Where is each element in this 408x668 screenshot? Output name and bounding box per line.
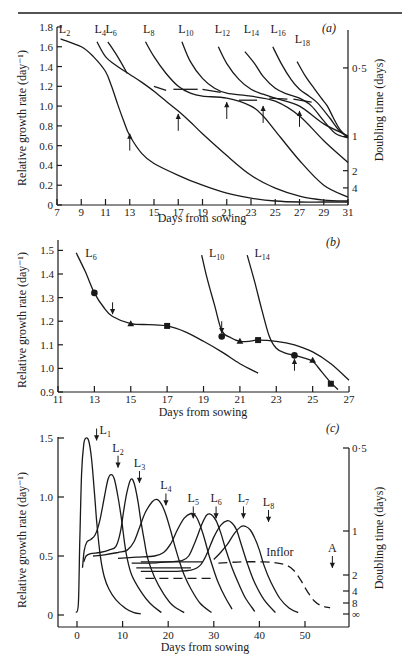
panel-c-x-axis-title: Days from sowing: [161, 640, 250, 654]
panel-a-x-tick-label: 13: [124, 206, 136, 218]
panel-a-curves: L2L4L6L8L10L12L14L16L18: [59, 22, 348, 202]
circle-marker-icon: [291, 352, 298, 359]
panel-c-y-tick-label: 0.5: [39, 550, 53, 562]
panel-b-x-tick-label: 25: [307, 393, 319, 405]
panel-a-curve-l10: [182, 42, 348, 163]
curve-label-l16: L16: [270, 22, 285, 38]
curve-label-l12: L12: [215, 22, 230, 38]
panel-a-right-tick-label: 2: [352, 165, 358, 177]
curve-label-a: A: [328, 541, 337, 555]
panel-a-up-arrow-icon-head: [127, 133, 132, 139]
panel-a-up-arrow-icon-head: [224, 102, 229, 108]
curve-label-l6: L6: [210, 491, 221, 507]
panel-c-x-tick-label: 40: [254, 629, 266, 641]
panel-a-curve-l14: [245, 52, 348, 138]
panel-a-x-tick-label: 7: [54, 206, 60, 218]
panel-a-y-tick-label: 1.2: [39, 80, 53, 92]
panel-a-y-tick-label: 1.8: [39, 21, 53, 33]
curve-label-l3: L3: [134, 456, 145, 472]
panel-a-y-tick-label: 0.6: [39, 140, 53, 152]
panel-c-x-tick-label: 50: [300, 629, 312, 641]
panel-b-curves: L6L10L14: [76, 246, 349, 389]
panel-c-label: (c): [326, 421, 339, 435]
panel-c-right-tick-label: 1: [352, 525, 358, 537]
curve-label-l2: L2: [59, 22, 70, 38]
panel-b-x-tick-label: 21: [234, 393, 245, 405]
curve-label-l10: L10: [209, 246, 224, 262]
panel-b-x-tick-label: 19: [198, 393, 210, 405]
panel-c-y-axis-title: Relative growth rate (day⁻¹): [15, 472, 29, 608]
panel-b-curve-l14: [247, 255, 338, 390]
panel-c-right-tick-label: ∞: [352, 608, 360, 620]
figure: (a) 00.20.40.60.81.01.21.41.61.879111315…: [0, 0, 408, 668]
panel-a-label: (a): [322, 21, 336, 35]
panel-c-y-tick-label: 1.5: [39, 432, 53, 444]
panel-b-label: (b): [326, 235, 340, 249]
inflor-label: Inflor: [266, 545, 293, 559]
panel-a-x-tick-label: 23: [246, 206, 258, 218]
panel-b-curve-l10: [202, 255, 349, 380]
curve-label-l4: L4: [95, 22, 106, 38]
circle-marker-icon: [218, 333, 225, 340]
panel-a-right-tick-label: 1: [352, 130, 358, 142]
panel-c-y-tick-label: 1.0: [39, 491, 53, 503]
panel-b-down-arrow-icon-head: [110, 309, 115, 315]
panel-b-axes: 0.91.01.11.21.31.41.5111315171921232527: [40, 240, 355, 405]
panel-a-dashed-segment: [269, 98, 287, 99]
panel-c-x-tick-label: 10: [117, 629, 129, 641]
panel-a-x-tick-label: 29: [318, 206, 330, 218]
panel-a-y-tick-label: 0.8: [39, 120, 53, 132]
panel-a-x-axis-title: Days from sowing: [158, 211, 247, 225]
panel-b-y-tick-label: 1.4: [40, 268, 54, 280]
panel-a-curve-l12: [218, 47, 348, 136]
curve-label-l7: L7: [238, 491, 249, 507]
panel-a-y-tick-label: 1.0: [39, 100, 53, 112]
panel-b-x-axis-title: Days from sowing: [159, 405, 248, 419]
panel-c-right-axis-title: Doubling time (days): [372, 487, 386, 590]
panel-b-y-tick-label: 1.2: [40, 315, 54, 327]
panel-c-right-tick-label: 0·5: [352, 442, 367, 454]
panel-a-curve-l4: [97, 42, 348, 201]
panel-c-down-arrow-icon-l4-head: [163, 500, 168, 506]
curve-label-l18: L18: [295, 32, 310, 48]
curve-label-l6: L6: [106, 22, 117, 38]
panel-c-dashed-inflor: [218, 562, 330, 608]
panel-c-curve-l7: [141, 521, 276, 613]
panel-c-chart: (c) 00.51.01.5010203040500·51248∞ L1L2L3…: [15, 421, 386, 654]
panel-a-curve-l18: [297, 62, 348, 138]
panel-b-up-arrow-icon-head: [292, 358, 297, 364]
panel-c-right-tick-label: 4: [352, 585, 358, 597]
square-marker-icon: [328, 381, 334, 387]
square-marker-icon: [164, 323, 170, 329]
panel-c-x-tick-label: 0: [74, 629, 80, 641]
panel-a-y-tick-label: 1.4: [39, 61, 53, 73]
panel-b-y-tick-label: 1.0: [40, 362, 54, 374]
panel-c-down-arrow-icon-l2-head: [115, 463, 120, 469]
panel-a-x-tick-label: 27: [294, 206, 306, 218]
panel-c-down-arrow-icon-a-head: [330, 563, 335, 569]
panel-b-y-tick-label: 1.1: [40, 339, 54, 351]
panel-b-x-tick-label: 23: [271, 393, 283, 405]
curve-label-l6: L6: [85, 246, 96, 262]
curve-label-l8: L8: [263, 495, 274, 511]
square-marker-icon: [255, 337, 261, 343]
circle-marker-icon: [91, 290, 98, 297]
panel-a-y-tick-label: 1.6: [39, 41, 53, 53]
curve-label-l14: L14: [254, 246, 269, 262]
panel-b-y-axis-title: Relative growth rate (day⁻¹): [15, 252, 29, 388]
curve-label-l2: L2: [112, 441, 123, 457]
curve-label-l4: L4: [160, 478, 171, 494]
panel-b-x-tick-label: 13: [89, 393, 101, 405]
curve-label-l8: L8: [143, 22, 154, 38]
panel-b-x-tick-label: 15: [125, 393, 137, 405]
panel-a-curve-l6: [108, 42, 127, 74]
panel-a-up-arrow-icon-head: [176, 114, 181, 120]
panel-a-x-tick-label: 25: [270, 206, 282, 218]
panel-b-x-tick-label: 17: [162, 393, 174, 405]
panel-a-up-arrow-icon-head: [261, 106, 266, 112]
panel-c-down-arrow-icon-l8-head: [266, 517, 271, 523]
panel-b-y-tick-label: 1.5: [40, 244, 54, 256]
panel-b-chart: (b) 0.91.01.11.21.31.41.5111315171921232…: [15, 235, 355, 419]
panel-c-down-arrow-icon-l3-head: [137, 478, 142, 484]
panel-a-x-tick-label: 31: [343, 206, 354, 218]
